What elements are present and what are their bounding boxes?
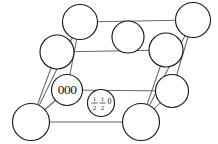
atom-front-right xyxy=(123,104,160,141)
atom-mid-right xyxy=(149,33,183,67)
frac-second-numerator: 1 xyxy=(101,95,104,102)
atom-right-lower xyxy=(156,75,189,108)
atom-top-interior xyxy=(112,21,144,53)
frac-second-denominator: 2 xyxy=(101,104,104,111)
frac-first-denominator: 2 xyxy=(93,104,96,111)
lattice-atoms xyxy=(13,3,211,141)
lattice-figure: 000 1 2 1 2 0 xyxy=(0,0,218,144)
atom-top-back-left xyxy=(63,5,98,40)
atom-top-back-right xyxy=(176,3,211,38)
atom-front-left xyxy=(13,104,50,141)
atom-mid-left xyxy=(40,35,74,69)
origin-coordinate-label: 000 xyxy=(58,82,78,97)
frac-third-value: 0 xyxy=(108,97,112,106)
lattice-diagram-canvas: 000 1 2 1 2 0 xyxy=(0,0,218,144)
frac-first-numerator: 1 xyxy=(93,95,96,102)
